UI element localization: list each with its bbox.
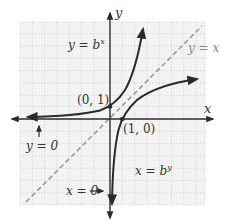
x-axis-label: x [204,101,212,116]
log-curve-label: x = by [135,163,172,178]
asymptote-h-label: y = 0 [25,139,58,153]
exp-curve-label: y = bx [67,37,105,52]
point-1-0-label: (1, 0) [123,122,155,136]
identity-label: y = x [187,41,219,55]
point-1-0 [120,117,125,122]
asymptote-v-label: x = 0 [66,184,98,198]
point-0-1-label: (0, 1) [77,93,109,107]
y-axis-label: y [114,5,123,20]
graph-canvas: y x y = bx y = x (0, 1) (1, 0) y = 0 x =… [0,0,231,224]
